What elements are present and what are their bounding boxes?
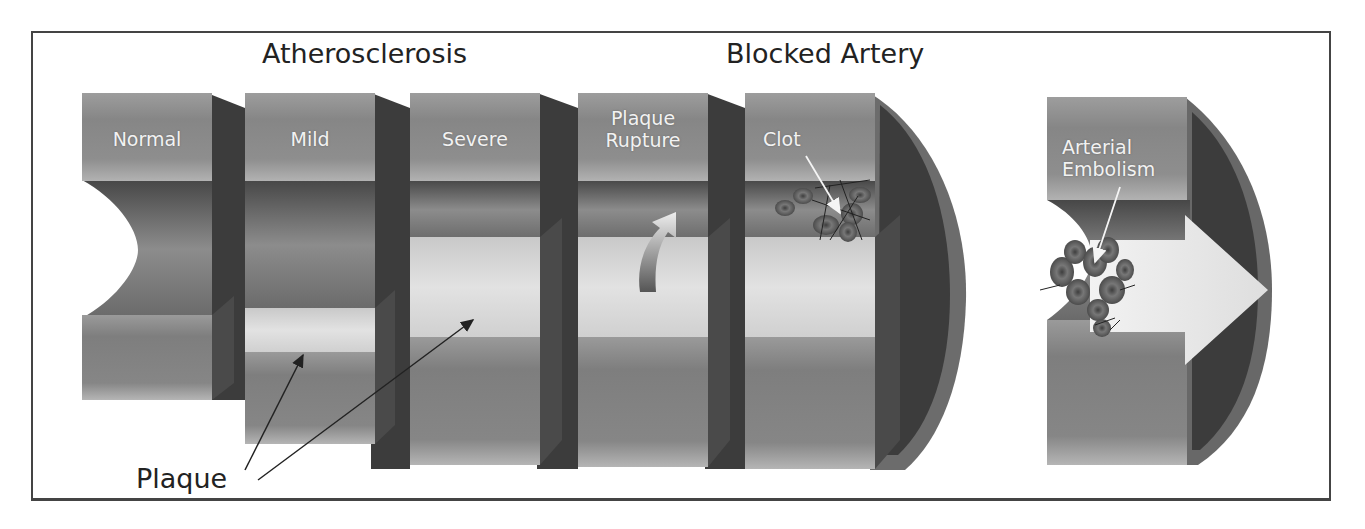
artery-illustration: [0, 0, 1365, 529]
label-plaque-rupture: Plaque Rupture: [578, 107, 708, 151]
label-clot: Clot: [763, 128, 801, 150]
label-plaque-rupture-line1: Plaque: [578, 107, 708, 129]
label-embolism-line2: Embolism: [1062, 158, 1155, 180]
label-mild: Mild: [245, 128, 375, 150]
label-normal: Normal: [82, 128, 212, 150]
label-severe: Severe: [410, 128, 540, 150]
label-plaque-rupture-line2: Rupture: [578, 129, 708, 151]
label-embolism-line1: Arterial: [1062, 136, 1155, 158]
label-arterial-embolism: Arterial Embolism: [1062, 136, 1155, 180]
annotation-plaque: Plaque: [136, 463, 227, 494]
